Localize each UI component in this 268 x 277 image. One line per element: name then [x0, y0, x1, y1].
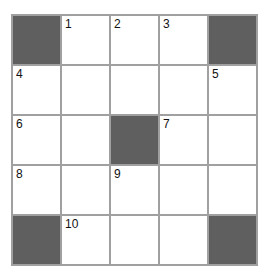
grid-cell[interactable] [62, 116, 111, 166]
crossword-grid: 1 2 3 4 5 6 7 8 9 10 [11, 14, 258, 266]
grid-cell[interactable]: 9 [111, 166, 160, 216]
black-square [13, 216, 62, 266]
clue-number: 7 [163, 118, 170, 130]
grid-cell[interactable] [62, 66, 111, 116]
black-square [111, 116, 160, 166]
grid-cell[interactable]: 10 [62, 216, 111, 266]
clue-number: 6 [16, 118, 23, 130]
clue-number: 4 [16, 68, 23, 80]
clue-number: 1 [65, 18, 72, 30]
grid-cell[interactable] [111, 216, 160, 266]
grid-cell[interactable]: 3 [160, 16, 209, 66]
grid-cell[interactable]: 7 [160, 116, 209, 166]
black-square [209, 216, 258, 266]
grid-cell[interactable]: 8 [13, 166, 62, 216]
grid-cell[interactable] [160, 166, 209, 216]
grid-cell[interactable] [209, 116, 258, 166]
clue-number: 3 [163, 18, 170, 30]
grid-cell[interactable] [160, 66, 209, 116]
black-square [209, 16, 258, 66]
grid-cell[interactable]: 2 [111, 16, 160, 66]
clue-number: 5 [212, 68, 219, 80]
grid-cell[interactable]: 4 [13, 66, 62, 116]
grid-cell[interactable] [160, 216, 209, 266]
black-square [13, 16, 62, 66]
grid-cell[interactable]: 1 [62, 16, 111, 66]
clue-number: 9 [114, 168, 121, 180]
grid-cell[interactable] [62, 166, 111, 216]
grid-cell[interactable]: 6 [13, 116, 62, 166]
clue-number: 10 [65, 218, 78, 230]
clue-number: 2 [114, 18, 121, 30]
grid-cell[interactable]: 5 [209, 66, 258, 116]
clue-number: 8 [16, 168, 23, 180]
grid-cell[interactable] [209, 166, 258, 216]
grid-cell[interactable] [111, 66, 160, 116]
